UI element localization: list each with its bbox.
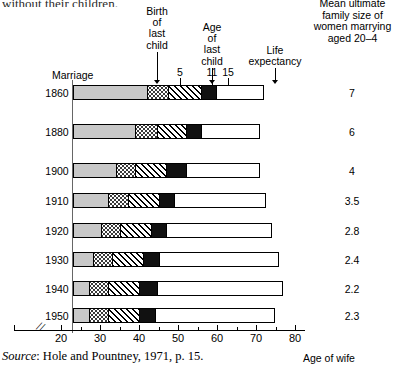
bar-segment [89,309,108,322]
callout-arrow-line [157,52,158,82]
x-axis-tick [120,327,121,331]
bar-segment [89,282,108,295]
x-axis-tick [198,327,199,331]
bar-row [73,193,266,208]
x-axis-tick [139,325,140,330]
bar-row [73,223,272,238]
child-age-mark-tick [228,78,229,85]
x-axis-tick [295,325,296,330]
bar-segment [159,253,279,266]
mean-family-size-value: 7 [322,87,382,99]
bar-year-label: 1880 [29,126,69,138]
x-axis-tick [237,327,238,331]
bar-segment [157,282,283,295]
right-header-line-4: aged 20–4 [292,33,413,45]
x-axis-tick [256,325,257,330]
bar-segment [101,224,120,237]
bar-segment [74,224,101,237]
bar-year-label: 1920 [29,225,69,237]
x-axis-tick-label: 20 [48,332,74,344]
bar-segment [108,194,127,207]
callout-line: last [177,44,247,55]
bar-segment [74,194,109,207]
bar-segment [168,86,201,99]
bar-row [73,252,280,267]
bar-row [73,85,264,100]
child-age-mark-label: 15 [219,66,237,78]
bar-segment [166,224,270,237]
source-text: : Hole and Pountney, 1971, p. 15. [36,349,203,363]
x-axis-tick-label: 50 [165,332,191,344]
page-cutoff-text: without their children. [2,0,118,7]
x-axis-tick-label: 40 [126,332,152,344]
x-axis-tick [159,327,160,331]
bar-segment [112,253,143,266]
source-note: Source: Hole and Pountney, 1971, p. 15. [2,349,203,364]
bar-row [73,124,260,139]
bar-segment [151,224,166,237]
bar-segment [135,125,156,138]
x-axis-tick-label: 60 [204,332,230,344]
bar-year-label: 1860 [29,87,69,99]
bar-year-label: 1940 [29,283,69,295]
mean-family-size-value: 2.2 [322,283,382,295]
bar-year-label: 1900 [29,165,69,177]
bar-segment [74,164,116,177]
bar-segment [74,282,89,295]
right-column-header: Mean ultimate family size of women marry… [292,0,413,44]
bar-segment [186,164,259,177]
bar-segment [108,309,139,322]
bar-segment [186,125,201,138]
bar-segment [216,86,262,99]
mean-family-size-value: 3.5 [322,195,382,207]
callout-line: expectancy [240,56,310,67]
x-axis-tick-label: 30 [87,332,113,344]
bar-year-label: 1930 [29,254,69,266]
callout-arrow-head-icon [154,80,160,84]
mean-family-size-value: 6 [322,126,382,138]
bar-segment [74,253,93,266]
bar-segment [74,86,147,99]
x-axis-tick-label: 70 [243,332,269,344]
bar-segment [116,164,135,177]
bar-segment [74,125,136,138]
bar-year-label: 1950 [29,310,69,322]
axis-title: Age of wife [303,352,355,364]
source-label: Source [2,349,36,363]
bar-row [73,281,284,296]
bar-segment [143,253,158,266]
bar-row [73,163,260,178]
bar-segment [139,309,154,322]
x-axis-tick [217,325,218,330]
x-axis-origin-tick [14,325,15,330]
x-axis-line [14,330,305,331]
x-axis-tick [100,325,101,330]
callout-life-expectancy: Lifeexpectancy [240,45,310,67]
bar-segment [155,309,275,322]
child-age-mark-label: 5 [171,66,189,78]
x-axis-tick [276,327,277,331]
mean-family-size-value: 2.3 [322,310,382,322]
bar-segment [108,282,139,295]
child-age-mark-tick [180,78,181,85]
bar-segment [93,253,112,266]
bar-year-label: 1910 [29,195,69,207]
bar-segment [147,86,168,99]
x-axis-tick [178,325,179,330]
child-age-mark-tick [212,78,213,85]
callout-age-of-last-child: Ageoflastchild [177,22,247,67]
bar-segment [135,164,166,177]
bar-segment [201,86,216,99]
bar-row [73,308,276,323]
bar-segment [166,164,185,177]
bar-segment [139,282,156,295]
callout-arrow-head-icon [272,80,278,84]
bar-segment [74,309,89,322]
x-axis-tick [61,325,62,330]
bar-segment [157,125,186,138]
x-axis-tick [81,327,82,331]
bar-segment [128,194,159,207]
mean-family-size-value: 2.8 [322,225,382,237]
bar-segment [120,224,151,237]
bar-segment [159,194,174,207]
